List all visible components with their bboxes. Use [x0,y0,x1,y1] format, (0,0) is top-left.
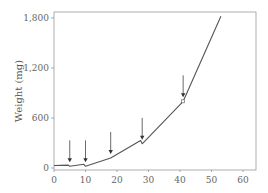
x-tick-label: 30 [143,175,155,185]
arrow-head-icon [68,158,72,162]
weight-series-line [54,16,221,166]
x-tick-label: 40 [174,175,186,185]
x-tick-label: 60 [237,175,249,185]
x-axis-ticks: 0102030405060 [51,170,249,185]
y-axis-title: Weight (mg) [13,60,24,122]
x-tick-label: 50 [206,175,218,185]
square-marker-icon [182,100,185,103]
series-line [54,16,221,166]
y-tick-label: 1,200 [23,63,49,73]
y-tick-label: 0 [43,163,49,173]
arrow-head-icon [109,150,113,154]
arrow-head-icon [83,158,87,162]
y-tick-label: 600 [32,113,49,123]
x-tick-label: 20 [111,175,123,185]
x-tick-label: 10 [80,175,92,185]
x-tick-label: 0 [51,175,57,185]
y-axis-ticks: 06001,2001,800 [23,13,54,173]
y-tick-label: 1,800 [23,13,49,23]
weight-chart: 06001,2001,800 0102030405060 Weight (mg) [0,0,268,193]
arrow-head-icon [140,136,144,140]
plot-frame [54,12,256,170]
